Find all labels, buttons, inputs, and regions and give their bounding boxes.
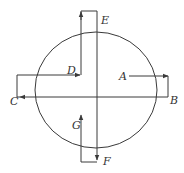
- circle: [35, 32, 157, 148]
- arrow-D-to-E: [81, 11, 97, 75]
- arrow-F-to-G: [81, 115, 97, 162]
- label-B: B: [169, 94, 178, 107]
- circle-diagram: A B C D E F G: [0, 0, 184, 173]
- label-F: F: [102, 155, 111, 168]
- label-A: A: [118, 70, 127, 83]
- label-D: D: [66, 64, 76, 77]
- label-G: G: [72, 119, 81, 132]
- arrow-C-to-D: [17, 75, 80, 97]
- label-E: E: [100, 14, 109, 27]
- label-C: C: [10, 95, 19, 108]
